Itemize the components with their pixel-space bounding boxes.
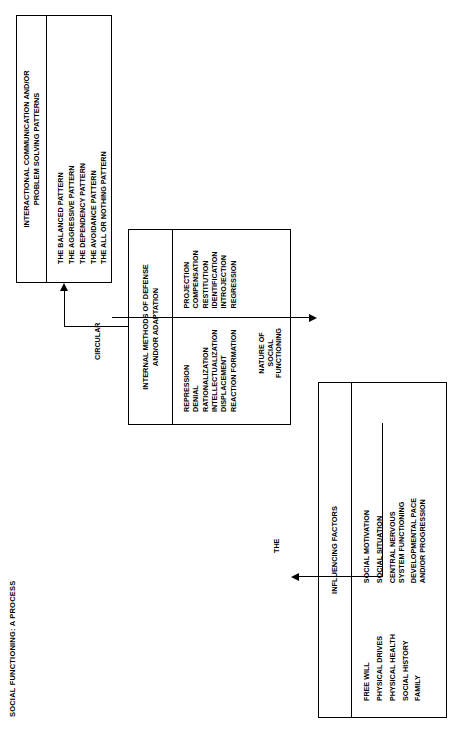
box-defense-header-line1: INTERNAL METHODS OF DEFENSE bbox=[141, 264, 150, 390]
list-item: IDENTIFICATION bbox=[210, 240, 219, 308]
list-item: REACTION FORMATION bbox=[229, 308, 238, 412]
list-item: SOCIAL HISTORY bbox=[401, 583, 410, 701]
connector-circular-horizontal bbox=[64, 291, 65, 327]
page-title: SOCIAL FUNCTIONING: A PROCESS bbox=[8, 581, 17, 717]
list-item: RATIONALIZATION bbox=[201, 308, 210, 412]
connector-the-vertical bbox=[299, 576, 382, 577]
box-interactional-communication: INTERACTIONAL COMMUNICATION AND/OR PROBL… bbox=[16, 15, 112, 283]
list-item: REPRESSION bbox=[182, 308, 191, 412]
box-defense-header: INTERNAL METHODS OF DEFENSE AND/OR ADAPT… bbox=[129, 230, 173, 424]
box-internal-methods-of-defense: INTERNAL METHODS OF DEFENSE AND/OR ADAPT… bbox=[128, 229, 291, 425]
box-interactional-header: INTERACTIONAL COMMUNICATION AND/OR PROBL… bbox=[17, 16, 47, 282]
box-influencing-body: FREE WILL PHYSICAL DRIVES PHYSICAL HEALT… bbox=[352, 383, 446, 717]
list-item: INTELLECTUALIZATION bbox=[210, 308, 219, 412]
list-item: RESTITUTION bbox=[201, 240, 210, 308]
list-item: REGRESSION bbox=[229, 240, 238, 308]
list-item: FREE WILL bbox=[362, 583, 371, 701]
connector-the-horizontal bbox=[382, 423, 383, 577]
box-influencing-header: INFLUENCING FACTORS bbox=[319, 383, 352, 717]
arrow-head-icon-to-defense bbox=[291, 573, 299, 581]
list-item: INTROJECTION bbox=[219, 240, 228, 308]
box-influencing-header-text: INFLUENCING FACTORS bbox=[330, 506, 339, 594]
box-influencing-column-right: SOCIAL MOTIVATION SOCIAL SITUATION CENTR… bbox=[362, 393, 442, 583]
list-item: DISPLACEMENT bbox=[219, 308, 228, 412]
list-item: SOCIAL MOTIVATION bbox=[362, 393, 371, 583]
list-item: DENIAL bbox=[191, 308, 200, 412]
arrow-head-icon-to-influencing bbox=[309, 314, 317, 322]
edge-label-circular: CIRCULAR bbox=[94, 322, 103, 360]
list-item: THE AVOIDANCE PATTERN bbox=[89, 26, 98, 264]
box-interactional-header-line1: INTERACTIONAL COMMUNICATION AND/OR bbox=[22, 70, 31, 227]
box-interactional-body: THE BALANCED PATTERN THE AGGRESSIVE PATT… bbox=[47, 16, 111, 282]
list-item: COMPENSATION bbox=[191, 240, 200, 308]
list-item: CENTRAL NERVOUS SYSTEM FUNCTIONING bbox=[388, 393, 406, 583]
box-interactional-list: THE BALANCED PATTERN THE AGGRESSIVE PATT… bbox=[56, 26, 107, 264]
list-item: THE ALL OR NOTHING PATTERN bbox=[99, 26, 108, 264]
box-interactional-header-line2: PROBLEM SOLVING PATTERNS bbox=[32, 70, 41, 227]
arrow-head-icon-to-interactional bbox=[60, 283, 68, 291]
box-influencing-column-left: FREE WILL PHYSICAL DRIVES PHYSICAL HEALT… bbox=[362, 583, 442, 701]
list-item: PROJECTION bbox=[182, 240, 191, 308]
box-defense-body: REPRESSION DENIAL RATIONALIZATION INTELL… bbox=[173, 230, 290, 424]
edge-label-nature-line3: FUNCTIONING bbox=[275, 328, 284, 378]
list-item: THE AGGRESSIVE PATTERN bbox=[67, 26, 76, 264]
edge-label-the: THE bbox=[273, 539, 282, 553]
list-item: DEVELOPMENTAL PACE AND/OR PROGRESSION bbox=[409, 393, 427, 583]
box-defense-header-line2: AND/OR ADAPTATION bbox=[151, 264, 160, 390]
list-item: PHYSICAL HEALTH bbox=[388, 583, 397, 701]
list-item: PHYSICAL DRIVES bbox=[375, 583, 384, 701]
edge-label-nature-of-social-functioning: NATURE OF SOCIAL FUNCTIONING bbox=[258, 328, 284, 378]
list-item: THE BALANCED PATTERN bbox=[56, 26, 65, 264]
connector-nature-vertical bbox=[112, 317, 309, 318]
diagram-canvas: SOCIAL FUNCTIONING: A PROCESS INTERNAL M… bbox=[0, 0, 459, 729]
list-item: FAMILY bbox=[413, 583, 422, 701]
box-defense-column-right: PROJECTION COMPENSATION RESTITUTION IDEN… bbox=[182, 240, 286, 308]
list-item: THE DEPENDENCY PATTERN bbox=[78, 26, 87, 264]
